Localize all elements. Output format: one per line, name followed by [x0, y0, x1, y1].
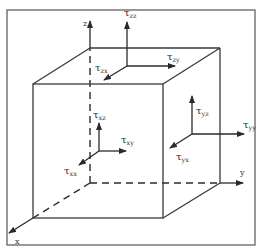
cube-top-left-edge [33, 48, 90, 84]
tau-yy-label: τyy [243, 119, 256, 132]
x-axis-arrow [9, 218, 33, 233]
tau-yx-label: τyx [176, 151, 189, 164]
x-axis-dashed [33, 183, 90, 218]
tau-zy-label: τzy [167, 51, 180, 64]
stress-arrows [79, 22, 244, 165]
tau-xx-label: τxx [64, 165, 77, 178]
y-axis-label: y [239, 168, 245, 177]
tau-xz-label: τxz [93, 109, 106, 122]
outer-frame [7, 10, 255, 245]
tau-yz-label: τyz [196, 105, 209, 118]
tau-zz-label: τzz [124, 7, 137, 20]
x-axis-label: x [15, 237, 20, 246]
tau-zx-label: τzx [95, 62, 108, 75]
stress-labels: τzz τzx τzy τyz τxz τxy τxx τyy τyx [64, 7, 256, 178]
z-axis-label: z [83, 19, 87, 28]
axes [9, 21, 243, 233]
tau-xx-arrow [79, 151, 99, 165]
tau-yx-arrow [170, 134, 192, 148]
tau-xy-label: τxy [121, 134, 134, 147]
stress-cube-diagram: z x y τzz τzx τzy τyz τxz τxy τxx τyy τy… [0, 0, 262, 251]
cube-bottom-right-edge [163, 183, 220, 218]
